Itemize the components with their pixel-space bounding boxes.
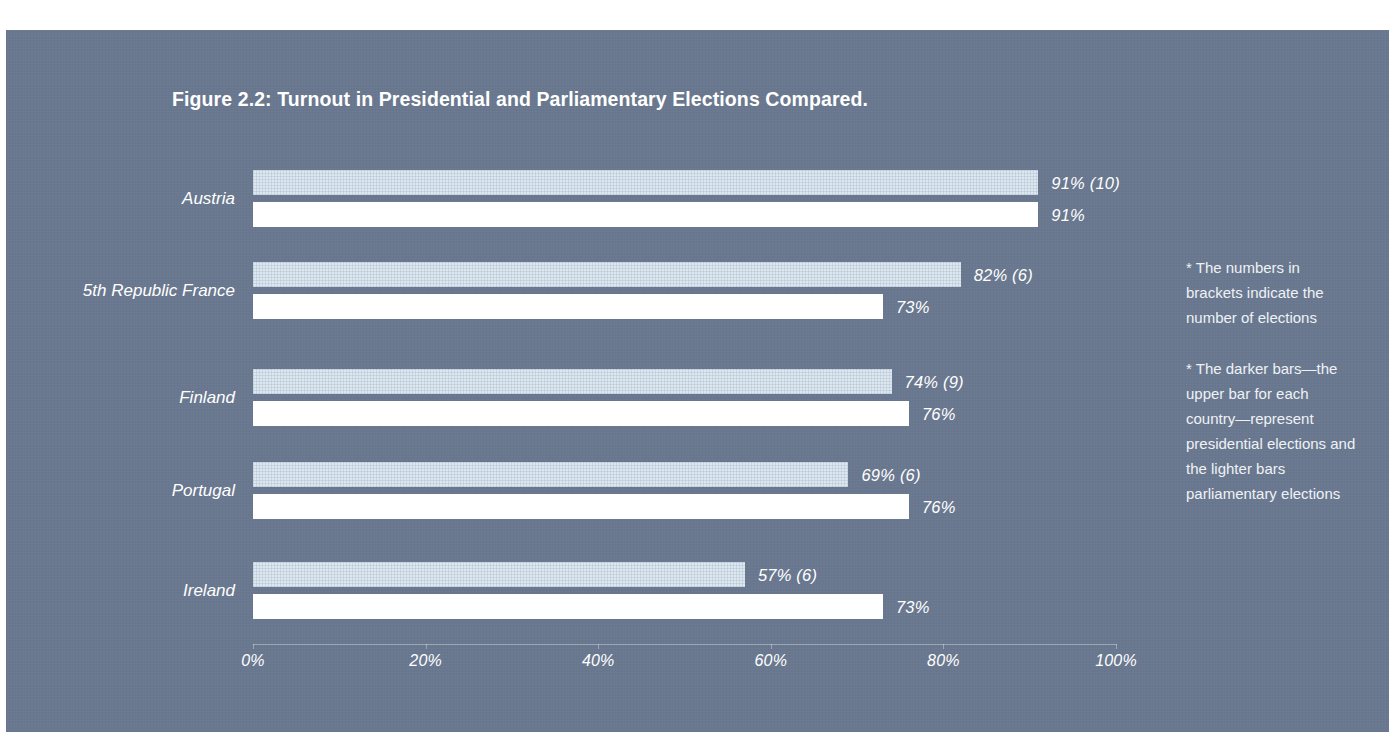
parliamentary-bar[interactable] [253, 202, 1038, 227]
presidential-bar[interactable] [253, 462, 848, 487]
parliamentary-bar[interactable] [253, 594, 883, 619]
presidential-bar[interactable] [253, 170, 1038, 195]
bar-group: Ireland57% (6)73% [253, 562, 1116, 619]
x-axis-tick-label: 0% [241, 652, 265, 670]
country-label: Finland [179, 388, 235, 408]
figure-page: Figure 2.2: Turnout in Presidential and … [0, 0, 1398, 744]
x-axis-tick [598, 644, 599, 649]
x-axis-tick-label: 20% [409, 652, 442, 670]
bar-value-label: 74% (9) [905, 372, 964, 391]
bar-row: 57% (6) [253, 562, 1116, 587]
bar-row: 76% [253, 401, 1116, 426]
bar-group: Austria91% (10)91% [253, 170, 1116, 227]
presidential-bar[interactable] [253, 262, 961, 287]
x-axis-tick [1116, 644, 1117, 649]
bar-value-label: 76% [922, 497, 956, 516]
country-label: Portugal [172, 481, 235, 501]
bar-row: 91% [253, 202, 1116, 227]
country-label: Austria [182, 189, 235, 209]
bar-row: 91% (10) [253, 170, 1116, 195]
parliamentary-bar[interactable] [253, 401, 909, 426]
bar-row: 73% [253, 594, 1116, 619]
x-axis-tick-label: 80% [927, 652, 960, 670]
page-title: Figure 2.2: Turnout in Presidential and … [172, 88, 868, 111]
bar-chart-plot-area: Austria91% (10)91%5th Republic France82%… [253, 170, 1116, 640]
bar-value-label: 57% (6) [758, 565, 817, 584]
bar-group: Finland74% (9)76% [253, 369, 1116, 426]
bar-value-label: 69% (6) [861, 465, 920, 484]
x-axis-tick-label: 60% [754, 652, 787, 670]
x-axis-tick [771, 644, 772, 649]
parliamentary-bar[interactable] [253, 294, 883, 319]
bar-row: 73% [253, 294, 1116, 319]
bar-group: Portugal69% (6)76% [253, 462, 1116, 519]
x-axis-tick [253, 644, 254, 649]
bar-value-label: 73% [896, 597, 930, 616]
bar-row: 76% [253, 494, 1116, 519]
bar-value-label: 82% (6) [974, 265, 1033, 284]
figure-note: * The darker bars—the upper bar for each… [1186, 356, 1358, 506]
bar-value-label: 73% [896, 297, 930, 316]
bar-row: 74% (9) [253, 369, 1116, 394]
presidential-bar[interactable] [253, 562, 745, 587]
figure-notes: * The numbers in brackets indicate the n… [1186, 255, 1358, 532]
bar-value-label: 91% (10) [1051, 173, 1120, 192]
country-label: Ireland [183, 581, 235, 601]
bar-value-label: 91% [1051, 205, 1085, 224]
presidential-bar[interactable] [253, 369, 892, 394]
x-axis-tick [426, 644, 427, 649]
country-label: 5th Republic France [83, 281, 235, 301]
figure-note: * The numbers in brackets indicate the n… [1186, 255, 1358, 330]
x-axis-tick-label: 40% [582, 652, 615, 670]
bar-row: 69% (6) [253, 462, 1116, 487]
x-axis-line [253, 644, 1117, 645]
bar-row: 82% (6) [253, 262, 1116, 287]
bar-value-label: 76% [922, 404, 956, 423]
bar-group: 5th Republic France82% (6)73% [253, 262, 1116, 319]
parliamentary-bar[interactable] [253, 494, 909, 519]
x-axis-tick-label: 100% [1095, 652, 1137, 670]
x-axis-tick [943, 644, 944, 649]
figure-panel: Figure 2.2: Turnout in Presidential and … [6, 30, 1389, 732]
